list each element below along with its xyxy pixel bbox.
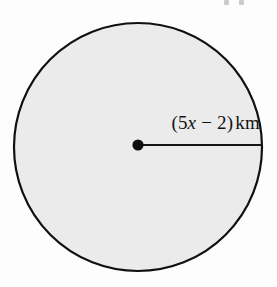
radius-label-unit: km: [235, 112, 260, 133]
radius-label-variable: x: [188, 112, 197, 133]
center-point-dot: [132, 139, 143, 150]
circle-diagram-canvas: [0, 0, 277, 287]
radius-label-coefficient: 5: [178, 112, 188, 133]
radius-label: (5x − 2)km: [140, 110, 260, 136]
radius-label-operator: −: [201, 112, 212, 133]
radius-label-constant: 2: [217, 112, 227, 133]
radius-label-close-paren: ): [227, 112, 234, 133]
circle-figure: (5x − 2)km: [0, 0, 277, 287]
